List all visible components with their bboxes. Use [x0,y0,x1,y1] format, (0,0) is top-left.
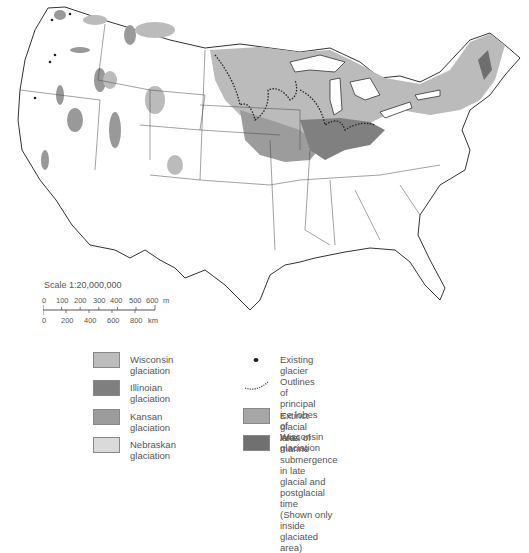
scale-km-tick: 0 [42,316,46,325]
legend-label: Nebraskan glaciation [130,439,176,461]
extinct-lake-swatch [243,408,270,424]
nebraskan-swatch [93,437,120,453]
wisconsin-swatch [93,352,120,368]
legend-wisconsin: Wisconsin glaciation [93,352,173,376]
marine-swatch [243,435,270,451]
legend-illinoian: Illinoian glaciation [93,380,170,404]
legend-label: Illinoian glaciation [130,382,170,404]
kansan-swatch [93,409,120,425]
glacier-dot-icon [243,352,270,368]
scale-km-tick: 200 [61,316,74,325]
scale-mile-tick: 100 [56,296,69,305]
scale-mile-unit: m [163,296,169,305]
scale-title: Scale 1:20,000,000 [44,280,122,290]
scale-mile-tick: 600 [146,296,159,305]
scale-mile-tick: 500 [129,296,142,305]
scale-bar: 0 100 200 300 400 500 600 m 0 200 400 60… [40,296,200,326]
legend-kansan: Kansan glaciation [93,409,170,433]
scale-km-tick: 600 [107,316,120,325]
illinoian-swatch [93,380,120,396]
legend-existing-glacier: Existing glacier [243,352,313,376]
scale-mile-tick: 400 [110,296,123,305]
scale-mile-tick: 200 [74,296,87,305]
scale-km-unit: km [148,316,158,325]
legend-label: Kansan glaciation [130,411,170,433]
legend-label: Existing glacier [280,354,313,376]
legend-marine-submergence: Area of marine submergence in late glaci… [243,435,338,553]
legend-label: Wisconsin glaciation [130,354,173,376]
scale-km-tick: 400 [84,316,97,325]
legend-nebraskan: Nebraskan glaciation [93,437,176,461]
legend-label: Area of marine submergence in late glaci… [280,432,338,553]
scale-km-tick: 800 [130,316,143,325]
scale-mile-tick: 0 [42,296,46,305]
scale-bar-ruler [43,305,158,315]
hachured-line-icon [243,376,270,392]
scale-mile-tick: 300 [93,296,106,305]
